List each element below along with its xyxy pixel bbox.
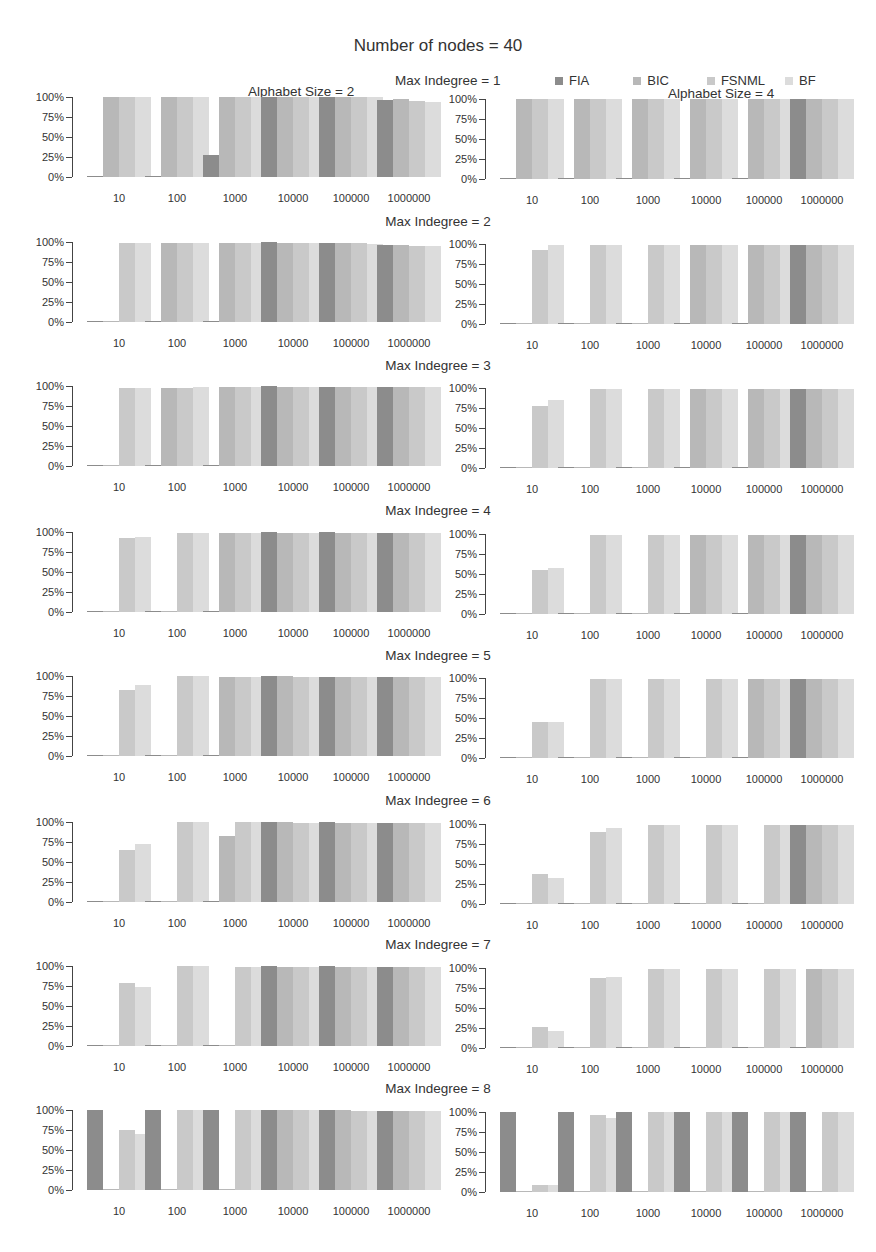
bar-fsnml [235,967,251,1046]
bar-fsnml [706,99,722,179]
bar-group-100 [145,532,209,612]
y-tick-label: 75% [437,692,477,704]
bar-fia [261,1110,277,1190]
y-tick-label: 0% [24,1040,64,1052]
x-tick-label: 10000 [263,337,323,349]
bar-fsnml [822,245,838,324]
bar-bic [806,245,822,324]
bar-fia [674,903,690,904]
bar-fsnml [409,1111,425,1190]
y-tick-label: 75% [437,113,477,125]
x-tick-label: 100000 [321,192,381,204]
bar-fia [790,1047,806,1048]
y-tick-mark [66,242,72,243]
bar-fia [319,966,335,1046]
bar-group-1000000 [790,968,854,1048]
bar-group-100 [558,99,622,179]
y-tick-label: 25% [437,732,477,744]
y-tick-label: 75% [24,690,64,702]
bar-bic [690,903,706,904]
bar-fia [500,323,516,324]
bar-group-10 [87,822,151,902]
y-tick-mark [479,428,485,429]
bar-bic [219,387,235,466]
y-tick-mark [479,264,485,265]
bar-fia [616,323,632,324]
chart-title: Number of nodes = 40 [0,36,876,56]
y-tick-mark [479,99,485,100]
bar-group-1000000 [377,386,441,466]
y-tick-label: 50% [437,858,477,870]
bar-fsnml [764,969,780,1048]
bar-fia [732,1047,748,1048]
y-tick-label: 0% [24,896,64,908]
bar-group-1000 [203,676,267,756]
y-tick-label: 75% [24,1124,64,1136]
bar-fia [319,532,335,612]
bar-group-1000000 [790,534,854,614]
y-tick-mark [479,284,485,285]
bar-group-100 [558,1112,622,1192]
bar-bic [219,1045,235,1046]
y-tick-label: 75% [24,980,64,992]
bar-group-10 [87,532,151,612]
bar-fia [377,823,393,902]
y-tick-mark [479,1172,485,1173]
y-tick-mark [479,1008,485,1009]
bar-bic [277,676,293,756]
x-tick-label: 10 [89,627,149,639]
x-tick-label: 10000 [263,917,323,929]
bar-fia [558,903,574,904]
bar-bic [335,97,351,177]
bar-group-10 [87,97,151,177]
bar-fsnml [235,533,251,612]
bar-bic [748,535,764,614]
bar-group-100 [558,824,622,904]
bar-group-1000000 [377,97,441,177]
y-axis [72,676,73,756]
y-tick-mark [66,302,72,303]
bar-fia [616,903,632,904]
bar-fsnml [235,97,251,177]
bar-fia [319,822,335,902]
y-tick-label: 50% [437,568,477,580]
x-tick-label: 10000 [263,481,323,493]
y-tick-mark [479,614,485,615]
bar-fia [558,613,574,614]
bar-bic [161,1045,177,1046]
bar-group-10 [500,1112,564,1192]
bar-bic [516,467,532,468]
x-tick-label: 10000 [263,771,323,783]
bar-bic [277,243,293,322]
bar-group-1000 [616,1112,680,1192]
bar-fsnml [177,1110,193,1190]
y-tick-mark [479,179,485,180]
bar-bic [393,533,409,612]
bar-fia [145,901,161,902]
y-axis [72,97,73,177]
y-tick-mark [66,842,72,843]
y-tick-mark [66,902,72,903]
bar-fsnml [293,823,309,902]
bar-bic [574,99,590,179]
y-tick-mark [66,466,72,467]
bar-bic [516,757,532,758]
y-tick-mark [479,534,485,535]
bar-fsnml [590,389,606,468]
bar-group-10000 [674,968,738,1048]
bar-fsnml [293,533,309,612]
y-tick-label: 75% [437,838,477,850]
bar-fia [145,465,161,466]
x-tick-label: 10 [89,1205,149,1217]
y-tick-mark [66,552,72,553]
y-tick-mark [479,388,485,389]
y-tick-mark [66,696,72,697]
bar-group-1000 [203,1110,267,1190]
bar-fia [616,467,632,468]
bar-fia [616,757,632,758]
bar-fia [790,825,806,904]
y-tick-mark [66,1026,72,1027]
bar-group-100000 [732,824,796,904]
bar-group-100 [145,676,209,756]
bar-group-10 [500,678,564,758]
